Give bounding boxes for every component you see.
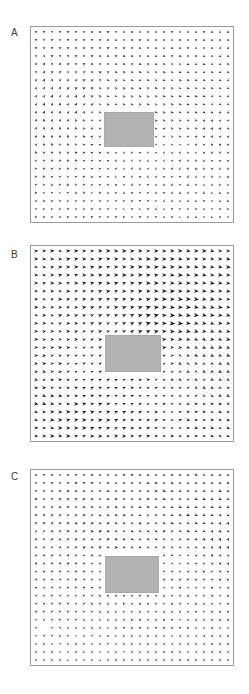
vector-arrow [186, 281, 191, 285]
vector-arrow [114, 602, 117, 605]
obstacle-rect-a [104, 112, 154, 147]
vector-arrow [154, 418, 159, 422]
vector-arrow [67, 362, 70, 365]
vector-arrow [138, 635, 141, 638]
vector-arrow [42, 54, 46, 58]
vector-arrow [162, 273, 167, 277]
vector-arrow [154, 265, 159, 269]
vector-arrow [162, 257, 167, 261]
vector-arrow [218, 191, 221, 194]
vector-arrow [219, 610, 222, 613]
vector-arrow [99, 87, 102, 90]
vector-arrow [211, 87, 214, 90]
vector-arrow [227, 71, 230, 74]
vector-arrow [34, 257, 38, 260]
vector-arrow [58, 70, 62, 74]
vector-arrow [163, 135, 166, 138]
vector-arrow [147, 31, 150, 34]
vector-arrow [163, 587, 166, 590]
vector-arrow [155, 135, 158, 138]
vector-arrow [90, 586, 93, 589]
vector-arrow [99, 643, 102, 645]
vector-arrow [226, 103, 230, 107]
vector-arrow [34, 30, 37, 33]
vector-arrow [162, 175, 165, 178]
vector-arrow [50, 386, 54, 389]
vector-arrow [210, 394, 214, 398]
vector-arrow [146, 426, 150, 430]
vector-arrow [226, 378, 230, 382]
vector-arrow [99, 31, 102, 34]
vector-arrow [226, 183, 229, 186]
vector-arrow [179, 554, 182, 557]
vector-arrow [218, 426, 222, 430]
vector-arrow [83, 54, 86, 57]
vector-arrow [130, 207, 133, 210]
vector-arrow [42, 562, 45, 565]
vector-arrow [155, 546, 158, 549]
vector-arrow [179, 143, 182, 146]
vector-arrow [90, 530, 94, 533]
vector-arrow [131, 31, 134, 33]
vector-arrow [146, 159, 149, 162]
vector-arrow [178, 257, 183, 261]
vector-arrow [194, 63, 197, 66]
vector-arrow [90, 215, 94, 219]
vector-arrow [170, 514, 174, 517]
vector-arrow [114, 199, 117, 202]
vector-arrow [42, 281, 46, 285]
vector-arrow [43, 594, 46, 597]
vector-arrow [34, 602, 37, 605]
vector-arrow [82, 561, 86, 565]
vector-arrow [163, 370, 166, 373]
vector-arrow [178, 418, 182, 422]
vector-arrow [98, 522, 102, 525]
vector-arrow [90, 265, 95, 270]
vector-arrow [187, 135, 190, 138]
vector-arrow [122, 489, 126, 492]
vector-arrow [147, 498, 150, 501]
vector-arrow [90, 418, 94, 421]
vector-arrow [202, 289, 207, 294]
vector-arrow [66, 394, 70, 398]
vector-arrow [50, 610, 53, 613]
vector-arrow [163, 386, 166, 389]
vector-arrow [82, 418, 87, 422]
vector-arrow [162, 435, 166, 438]
panel-label-b: B [11, 250, 18, 260]
vector-arrow [170, 191, 173, 194]
vector-arrow [186, 71, 189, 74]
vector-arrow [66, 537, 70, 541]
vector-arrow [74, 38, 78, 41]
vector-arrow [179, 514, 182, 517]
vector-arrow [74, 578, 77, 582]
vector-arrow [82, 537, 86, 541]
vector-arrow [82, 409, 87, 414]
vector-arrow [202, 297, 207, 302]
vector-arrow [155, 643, 158, 646]
vector-arrow [42, 354, 46, 358]
vector-arrow [114, 650, 117, 653]
vector-arrow [122, 514, 126, 517]
vector-arrow [75, 635, 78, 637]
vector-arrow [90, 127, 93, 130]
vector-arrow [186, 513, 190, 517]
vector-arrow [218, 103, 222, 107]
vector-arrow [58, 497, 62, 501]
vector-arrow [219, 30, 222, 33]
vector-arrow [195, 594, 198, 597]
vector-arrow [226, 47, 229, 50]
vector-arrow [170, 402, 174, 405]
vector-arrow [186, 265, 191, 269]
vector-arrow [66, 418, 71, 422]
vector-arrow [202, 473, 206, 476]
vector-arrow [58, 618, 61, 621]
vector-arrow [218, 289, 223, 293]
vector-arrow [59, 659, 62, 662]
vector-arrow [74, 110, 78, 114]
vector-arrow [66, 434, 71, 438]
vector-arrow [179, 402, 182, 405]
vector-arrow [82, 86, 86, 90]
vector-arrow [171, 30, 174, 33]
vector-arrow [34, 46, 38, 50]
